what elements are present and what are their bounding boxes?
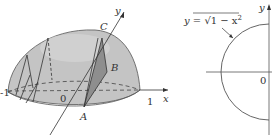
- equation-exponent: 2: [238, 14, 242, 22]
- tick-origin-right: 0: [260, 76, 266, 86]
- tick-neg-one: -1: [0, 88, 10, 98]
- x-axis-3d: [140, 88, 168, 92]
- tick-origin-left: 0: [60, 94, 66, 104]
- y-axis-label-left: y: [115, 6, 121, 16]
- point-c-label: C: [100, 22, 108, 32]
- equation-radicand: 1 − x: [211, 15, 238, 26]
- point-b-label: B: [111, 63, 118, 73]
- equation-pointer: [222, 28, 233, 38]
- equation-lhs: y =: [184, 15, 204, 26]
- tick-one: 1: [147, 97, 153, 107]
- equation-label: y = √1 − x2: [184, 15, 242, 26]
- point-a-label: A: [80, 112, 87, 122]
- y-axis-label-right: y: [259, 3, 265, 13]
- x-axis-label-left: x: [163, 94, 169, 104]
